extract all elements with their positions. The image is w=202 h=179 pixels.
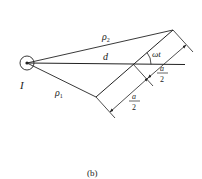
rotating-loop-diagram: I ρ2 ρ1 d ωt a 2 a 2 (b) [0,0,202,179]
extension-line-top [173,30,193,52]
rho1-line [27,63,96,97]
angle-arc [147,53,151,65]
lower-half-a-fraction: a 2 [129,92,140,112]
svg-text:a: a [160,64,164,73]
extension-line-bottom [96,97,115,118]
source-label: I [19,79,25,91]
svg-text:2: 2 [160,75,164,84]
angle-label: ωt [152,49,161,59]
svg-text:a: a [132,92,136,101]
distance-label: d [103,51,109,62]
svg-text:2: 2 [132,103,136,112]
figure-caption: (b) [87,168,98,178]
upper-half-a-fraction: a 2 [157,64,168,84]
dimension-lower-half-a [110,78,148,112]
rho1-label: ρ1 [54,87,63,99]
rho2-label: ρ2 [101,31,110,43]
